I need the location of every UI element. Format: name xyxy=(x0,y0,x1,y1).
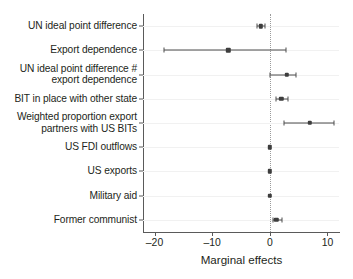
point-estimate-marker xyxy=(268,169,272,173)
x-axis-tick-label: –10 xyxy=(204,237,221,248)
coefficient-plot: UN ideal point differenceExport dependen… xyxy=(0,0,353,279)
y-axis-tick xyxy=(139,171,143,172)
confidence-interval-line xyxy=(164,50,286,51)
y-axis-label: Export dependence xyxy=(0,45,137,57)
confidence-interval-line xyxy=(270,74,296,75)
ci-upper-cap xyxy=(264,24,265,29)
gridline xyxy=(143,196,339,197)
x-axis-tick xyxy=(327,232,328,236)
x-axis-line xyxy=(143,232,340,233)
y-axis-tick xyxy=(139,98,143,99)
y-axis-label: Former communist xyxy=(0,214,137,226)
y-axis-tick xyxy=(139,147,143,148)
gridline xyxy=(143,99,339,100)
y-axis-label: BIT in place with other state xyxy=(0,93,137,105)
ci-lower-cap xyxy=(163,48,164,53)
ci-upper-cap xyxy=(287,96,288,101)
x-axis-tick xyxy=(155,232,156,236)
ci-lower-cap xyxy=(275,96,276,101)
y-axis-label: Weighted proportion export partners with… xyxy=(0,111,137,134)
point-estimate-marker xyxy=(307,121,311,125)
y-axis-label: UN ideal point difference xyxy=(0,20,137,32)
point-estimate-marker xyxy=(258,24,262,28)
gridline xyxy=(143,75,339,76)
gridline xyxy=(143,26,339,27)
point-estimate-marker xyxy=(226,48,230,52)
gridline xyxy=(143,147,339,148)
x-axis-tick xyxy=(212,232,213,236)
point-estimate-marker xyxy=(274,218,278,222)
gridline xyxy=(143,171,339,172)
ci-upper-cap xyxy=(281,217,282,222)
y-axis-tick xyxy=(139,50,143,51)
y-axis-label: US FDI outflows xyxy=(0,141,137,153)
y-axis-tick xyxy=(139,123,143,124)
x-axis-tick-label: –20 xyxy=(146,237,163,248)
ci-upper-cap xyxy=(285,48,286,53)
y-axis-tick xyxy=(139,195,143,196)
y-axis-tick xyxy=(139,219,143,220)
plot-area xyxy=(143,14,339,232)
ci-upper-cap xyxy=(295,72,296,77)
y-axis-label: US exports xyxy=(0,166,137,178)
point-estimate-marker xyxy=(279,97,283,101)
y-axis-label: UN ideal point difference # export depen… xyxy=(0,63,137,86)
y-axis-category-labels: UN ideal point differenceExport dependen… xyxy=(0,0,143,232)
x-axis-tick-label: 10 xyxy=(322,237,334,248)
ci-upper-cap xyxy=(334,121,335,126)
point-estimate-marker xyxy=(284,72,288,76)
ci-lower-cap xyxy=(283,121,284,126)
y-axis-label: Military aid xyxy=(0,190,137,202)
point-estimate-marker xyxy=(268,193,272,197)
gridline xyxy=(143,220,339,221)
x-axis-tick xyxy=(270,232,271,236)
y-axis-tick xyxy=(139,74,143,75)
x-axis-title: Marginal effects xyxy=(143,253,340,266)
y-axis-tick xyxy=(139,26,143,27)
x-axis-tick-label: 0 xyxy=(267,237,273,248)
point-estimate-marker xyxy=(268,145,272,149)
ci-lower-cap xyxy=(269,72,270,77)
